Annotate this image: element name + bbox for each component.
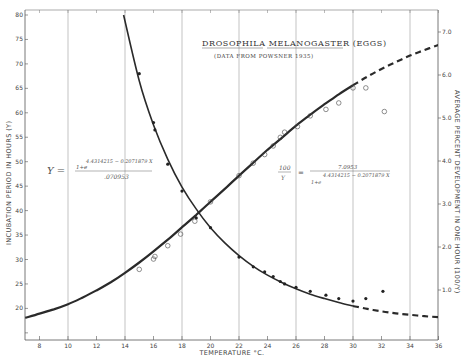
eq-right-lhs-numerator: 100 (279, 164, 291, 171)
right-y-tick-label: 4.0 (442, 157, 452, 164)
left-y-tick-label: 25 (15, 280, 23, 287)
data-point-filled (309, 290, 312, 293)
left-y-tick-label: 20 (15, 304, 23, 311)
eq-right-denominator: 1+e (311, 179, 321, 185)
eq-left-lhs: Y = (47, 165, 65, 176)
left-y-tick-label: 55 (15, 133, 23, 140)
right-y-tick-label: 2.0 (442, 243, 452, 250)
eq-right-numerator: 7.0953 (338, 164, 358, 170)
data-point-filled (152, 121, 155, 124)
x-tick-label: 36 (435, 342, 443, 349)
x-tick-label: 14 (121, 342, 129, 349)
x-tick-label: 28 (321, 342, 329, 349)
x-tick-label: 10 (64, 342, 72, 349)
left-y-tick-label: 45 (15, 182, 23, 189)
right-y-tick-label: 3.0 (442, 200, 452, 207)
left-y-tick-label: 35 (15, 231, 23, 238)
data-point-filled (138, 72, 141, 75)
chart-title: DROSOPHILA MELANOGASTER (EGGS) (202, 39, 387, 48)
left-y-tick-label: 60 (15, 109, 23, 116)
left-y-axis-title: INCUBATION PERIOD IN HOURS (Y) (5, 121, 13, 245)
data-point-filled (263, 270, 266, 273)
right-y-axis-title: AVERAGE PERCENT DEVELOPMENT IN ONE HOUR … (453, 90, 461, 294)
left-y-tick-label: 40 (15, 207, 23, 214)
eq-right-equals: = (298, 169, 304, 177)
chart-subtitle: (DATA FROM POWSNER 1935) (214, 53, 314, 59)
left-y-tick-label: 70 (15, 60, 23, 67)
data-point-filled (337, 297, 340, 300)
eq-left-numerator: 1+e (76, 164, 88, 170)
x-tick-label: 22 (235, 342, 243, 349)
data-point-filled (351, 299, 354, 302)
data-point-filled (237, 255, 240, 258)
left-y-tick-label: 30 (15, 256, 23, 263)
x-tick-label: 24 (264, 342, 272, 349)
data-point-filled (364, 297, 367, 300)
x-tick-label: 18 (178, 342, 186, 349)
right-y-tick-label: 5.0 (442, 114, 452, 121)
x-tick-label: 8 (38, 342, 42, 349)
eq-right-exponent: 4.4314215 − 0.2071879 X (322, 172, 390, 178)
x-axis-title: TEMPERATURE °C. (198, 349, 264, 357)
x-tick-label: 12 (93, 342, 101, 349)
x-tick-label: 34 (406, 342, 414, 349)
x-tick-label: 30 (349, 342, 357, 349)
data-point-filled (294, 286, 297, 289)
x-tick-label: 16 (150, 342, 158, 349)
eq-left-exponent: 4.4314215 − 0.2071879 X (85, 158, 153, 164)
left-y-tick-label: 75 (15, 35, 23, 42)
x-tick-label: 32 (378, 342, 386, 349)
data-point-filled (153, 128, 156, 131)
data-point-filled (283, 282, 286, 285)
right-y-tick-label: 7.0 (442, 28, 452, 35)
left-y-tick-label: 80 (15, 11, 23, 18)
data-point-filled (209, 226, 212, 229)
data-point-filled (324, 294, 327, 297)
data-point-filled (252, 265, 255, 268)
data-point-filled (180, 189, 183, 192)
data-point-filled (272, 275, 275, 278)
right-y-tick-label: 1.0 (442, 286, 452, 293)
left-y-tick-label: 50 (15, 158, 23, 165)
data-point-filled (279, 280, 282, 283)
x-tick-label: 26 (292, 342, 300, 349)
x-tick-label: 20 (207, 342, 215, 349)
right-y-tick-label: 6.0 (442, 71, 452, 78)
chart-canvas: 81012141618202224262830323436 8075706560… (0, 0, 465, 360)
left-y-tick-label: 65 (15, 84, 23, 91)
data-point-filled (381, 290, 384, 293)
data-point-filled (166, 163, 169, 166)
eq-left-denominator: .070953 (104, 173, 129, 180)
